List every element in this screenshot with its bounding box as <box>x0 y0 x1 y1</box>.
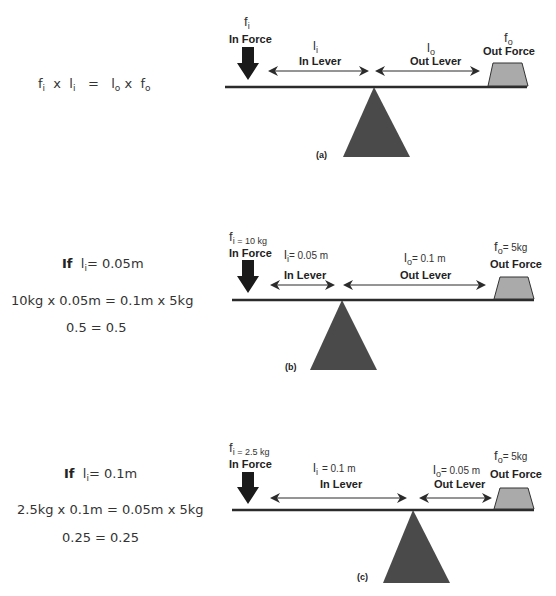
out-lever-symbol: lo= 0.05 m <box>433 462 480 479</box>
fulcrum-icon <box>343 87 410 157</box>
in-lever-label: In Lever <box>320 478 363 490</box>
in-force-label: In Force <box>229 33 272 45</box>
down-arrow-icon <box>237 472 259 504</box>
in-lever-symbol: li= 0.1 m <box>313 460 356 477</box>
panel-a: fi In Force fo Out Force li In Lever lo … <box>225 14 535 160</box>
in-force-symbol: fi <box>244 14 250 31</box>
in-lever-label: In Lever <box>284 269 327 281</box>
weight-icon <box>488 63 528 86</box>
out-lever-label: Out Lever <box>434 478 486 490</box>
in-lever-symbol: li <box>313 38 318 55</box>
in-lever-label: In Lever <box>299 55 342 67</box>
in-force-symbol: fi = 2.5 kg <box>229 440 269 457</box>
out-lever-symbol: lo= 0.1 m <box>404 250 446 267</box>
lever-diagrams: fi In Force fo Out Force li In Lever lo … <box>0 0 556 596</box>
down-arrow-icon <box>237 47 259 80</box>
panel-tag-a: (a) <box>316 150 327 160</box>
out-lever-label: Out Lever <box>410 55 462 67</box>
out-lever-label: Out Lever <box>400 269 452 281</box>
down-arrow-icon <box>237 260 259 293</box>
out-force-symbol: fo= 5kg <box>494 448 527 465</box>
fulcrum-icon <box>310 300 377 370</box>
out-force-label: Out Force <box>490 468 542 480</box>
out-force-label: Out Force <box>483 45 535 57</box>
out-force-label: Out Force <box>490 258 542 270</box>
out-force-symbol: fo= 5kg <box>494 239 527 256</box>
panel-tag-b: (b) <box>285 362 297 372</box>
in-lever-symbol: li= 0.05 m <box>284 247 328 264</box>
panel-b: fi = 10 kg In Force fo= 5kg Out Force li… <box>229 229 542 372</box>
weight-icon <box>494 488 534 509</box>
panel-c: fi = 2.5 kg In Force fo= 5kg Out Force l… <box>229 440 542 583</box>
weight-icon <box>494 277 534 299</box>
in-force-label: In Force <box>229 247 272 259</box>
fulcrum-icon <box>383 510 450 583</box>
panel-tag-c: (c) <box>357 572 368 582</box>
in-force-symbol: fi = 10 kg <box>229 229 267 246</box>
in-force-label: In Force <box>229 458 272 470</box>
